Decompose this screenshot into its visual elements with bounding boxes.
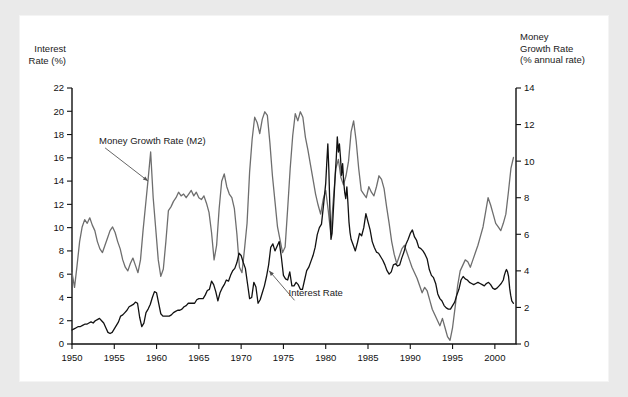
x-tick-label: 1970 (231, 352, 252, 363)
y-right-axis-title: Growth Rate (520, 43, 573, 54)
y-left-tick-label: 20 (53, 106, 64, 117)
money-growth-label: Money Growth Rate (M2) (99, 135, 206, 146)
y-left-tick-label: 22 (53, 82, 64, 93)
y-right-tick-label: 10 (524, 156, 535, 167)
x-tick-label: 1950 (61, 352, 82, 363)
y-left-tick-label: 8 (59, 245, 64, 256)
y-left-tick-label: 12 (53, 199, 64, 210)
y-right-tick-label: 8 (524, 192, 529, 203)
interest-rate-money-growth-chart: 0246810121416182022024681012141950195519… (20, 16, 608, 381)
x-tick-label: 1960 (146, 352, 167, 363)
y-left-axis-title: Interest (34, 43, 66, 54)
interest-rate-label: Interest Rate (289, 287, 343, 298)
money-growth-label-leader (105, 148, 148, 181)
y-right-tick-label: 2 (524, 302, 529, 313)
y-right-tick-label: 0 (524, 338, 529, 349)
y-right-axis-title: (% annual rate) (520, 54, 585, 65)
x-tick-label: 1975 (273, 352, 294, 363)
x-tick-label: 2000 (484, 352, 505, 363)
x-tick-label: 1955 (104, 352, 125, 363)
y-right-tick-label: 14 (524, 82, 535, 93)
y-right-axis-title: Money (520, 31, 549, 42)
series-line-interest-rate (72, 137, 513, 334)
y-left-tick-label: 18 (53, 129, 64, 140)
y-left-tick-label: 14 (53, 175, 64, 186)
y-left-tick-label: 6 (59, 269, 64, 280)
x-tick-label: 1990 (400, 352, 421, 363)
y-left-tick-label: 2 (59, 315, 64, 326)
y-right-tick-label: 12 (524, 119, 535, 130)
y-left-axis-title: Rate (%) (29, 55, 66, 66)
y-left-tick-label: 4 (59, 292, 64, 303)
x-tick-label: 1985 (357, 352, 378, 363)
y-right-tick-label: 6 (524, 229, 529, 240)
y-left-tick-label: 10 (53, 222, 64, 233)
y-left-tick-label: 0 (59, 338, 64, 349)
chart-panel: 0246810121416182022024681012141950195519… (20, 16, 608, 381)
figure-frame: 0246810121416182022024681012141950195519… (0, 0, 628, 397)
y-right-tick-label: 4 (524, 265, 529, 276)
x-tick-label: 1995 (442, 352, 463, 363)
x-tick-label: 1965 (188, 352, 209, 363)
y-left-tick-label: 16 (53, 152, 64, 163)
x-tick-label: 1980 (315, 352, 336, 363)
